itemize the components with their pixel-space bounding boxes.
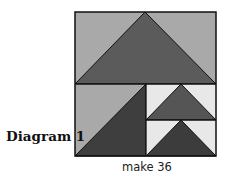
make-quantity-caption: make 36: [122, 160, 172, 174]
diagram-label: Diagram 1: [6, 128, 85, 144]
half-square-triangle-unit: [75, 84, 146, 156]
small-flying-goose-bottom-unit: [146, 120, 216, 156]
large-flying-goose-unit: [75, 12, 216, 84]
small-flying-goose-top-unit: [146, 84, 216, 120]
quilt-block-diagram: [0, 0, 229, 182]
